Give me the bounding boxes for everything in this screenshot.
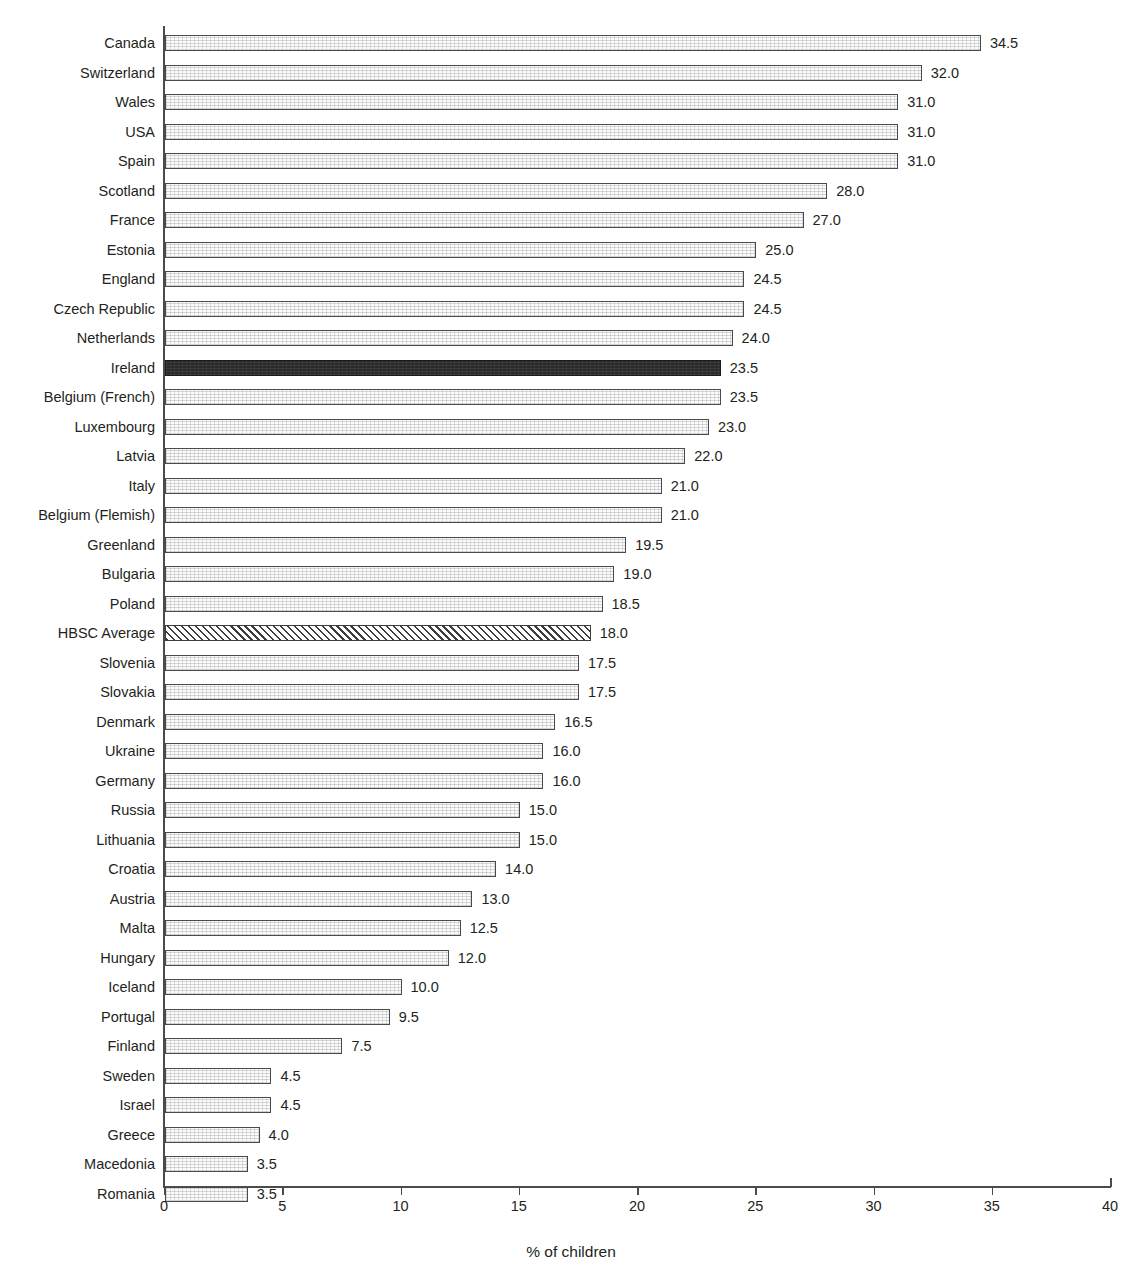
bar-value-label: 9.5 [399, 1009, 419, 1025]
bar-value-label: 15.0 [529, 832, 557, 848]
bar-value-label: 14.0 [505, 861, 533, 877]
bar-row: Russia15.0 [0, 795, 1142, 825]
bar [165, 94, 898, 110]
x-tick-label: 10 [392, 1198, 408, 1214]
x-tick-label: 40 [1102, 1198, 1118, 1214]
bar [165, 596, 603, 612]
bar-row: Macedonia3.5 [0, 1149, 1142, 1179]
bar [165, 1068, 271, 1084]
bar [165, 566, 614, 582]
category-label: Slovakia [0, 684, 155, 700]
bar-container: 15.0 [165, 832, 557, 848]
bar [165, 537, 626, 553]
bar-value-label: 4.0 [269, 1127, 289, 1143]
bar-row: Ukraine16.0 [0, 736, 1142, 766]
category-label: USA [0, 124, 155, 140]
plot-area: Canada34.5Switzerland32.0Wales31.0USA31.… [0, 0, 1142, 1190]
category-label: Belgium (French) [0, 389, 155, 405]
bar-row: Sweden4.5 [0, 1061, 1142, 1091]
category-label: Iceland [0, 979, 155, 995]
bar [165, 743, 543, 759]
category-label: Portugal [0, 1009, 155, 1025]
bar-container: 3.5 [165, 1156, 277, 1172]
category-label: Ireland [0, 360, 155, 376]
x-tick-mark [1110, 1178, 1112, 1187]
bar-value-label: 12.5 [470, 920, 498, 936]
category-label: Austria [0, 891, 155, 907]
bar-value-label: 10.0 [411, 979, 439, 995]
bar [165, 832, 520, 848]
bar-value-label: 24.0 [742, 330, 770, 346]
category-label: Bulgaria [0, 566, 155, 582]
bar-container: 23.0 [165, 419, 746, 435]
bar-chart: Canada34.5Switzerland32.0Wales31.0USA31.… [0, 0, 1142, 1267]
category-label: England [0, 271, 155, 287]
bar-container: 15.0 [165, 802, 557, 818]
bar-row: Hungary12.0 [0, 943, 1142, 973]
bar-value-label: 16.0 [552, 743, 580, 759]
bar-container: 16.0 [165, 773, 581, 789]
bar-container: 17.5 [165, 684, 616, 700]
bar-value-label: 34.5 [990, 35, 1018, 51]
bar-value-label: 28.0 [836, 183, 864, 199]
category-label: Scotland [0, 183, 155, 199]
bar-value-label: 22.0 [694, 448, 722, 464]
x-tick-mark [874, 1186, 876, 1195]
bar-row: Israel4.5 [0, 1090, 1142, 1120]
bar-value-label: 27.0 [813, 212, 841, 228]
bar [165, 389, 721, 405]
bar-container: 28.0 [165, 183, 864, 199]
bar [165, 891, 472, 907]
bar [165, 655, 579, 671]
bar-row: Greenland19.5 [0, 530, 1142, 560]
bar-value-label: 18.0 [600, 625, 628, 641]
bar [165, 950, 449, 966]
bar [165, 360, 721, 376]
bar-value-label: 24.5 [753, 301, 781, 317]
bar-value-label: 16.0 [552, 773, 580, 789]
category-label: Luxembourg [0, 419, 155, 435]
bar [165, 1038, 342, 1054]
bar-container: 21.0 [165, 478, 699, 494]
bar-row: Greece4.0 [0, 1120, 1142, 1150]
bar-row: Slovakia17.5 [0, 677, 1142, 707]
bar-row: Slovenia17.5 [0, 648, 1142, 678]
bar-container: 32.0 [165, 65, 959, 81]
bar-row: Romania3.5 [0, 1179, 1142, 1209]
category-label: Greece [0, 1127, 155, 1143]
bar-container: 31.0 [165, 94, 935, 110]
bar-value-label: 23.5 [730, 389, 758, 405]
bar [165, 802, 520, 818]
bar-container: 9.5 [165, 1009, 419, 1025]
category-label: Wales [0, 94, 155, 110]
bar-value-label: 32.0 [931, 65, 959, 81]
x-tick-mark [755, 1186, 757, 1195]
bar [165, 35, 981, 51]
bar-value-label: 12.0 [458, 950, 486, 966]
bar-container: 4.5 [165, 1097, 301, 1113]
bar-container: 24.5 [165, 271, 782, 287]
bar-row: Switzerland32.0 [0, 58, 1142, 88]
bar-row: Czech Republic24.5 [0, 294, 1142, 324]
category-label: Germany [0, 773, 155, 789]
bar-container: 7.5 [165, 1038, 372, 1054]
bar-row: Austria13.0 [0, 884, 1142, 914]
bar-container: 19.5 [165, 537, 663, 553]
bar [165, 1009, 390, 1025]
bar [165, 773, 543, 789]
bar-row: Wales31.0 [0, 87, 1142, 117]
bar-container: 4.5 [165, 1068, 301, 1084]
bar-container: 16.5 [165, 714, 592, 730]
bar-container: 21.0 [165, 507, 699, 523]
bar-container: 23.5 [165, 389, 758, 405]
bar [165, 714, 555, 730]
bar-container: 25.0 [165, 242, 793, 258]
bar-value-label: 4.5 [280, 1097, 300, 1113]
bar-row: Croatia14.0 [0, 854, 1142, 884]
x-tick-mark [992, 1186, 994, 1195]
x-tick-label: 35 [984, 1198, 1000, 1214]
bar-value-label: 17.5 [588, 684, 616, 700]
bar-row: Estonia25.0 [0, 235, 1142, 265]
category-label: France [0, 212, 155, 228]
bar-value-label: 21.0 [671, 507, 699, 523]
